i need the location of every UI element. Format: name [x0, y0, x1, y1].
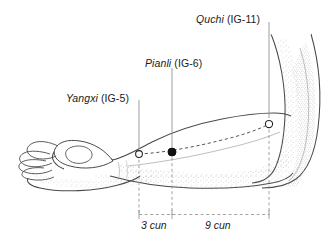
acupoint-label-quchi-code: (IG-11)	[227, 13, 260, 25]
acupoint-label-yangxi: Yangxi (IG-5)	[66, 92, 129, 104]
acupoint-forearm-diagram	[0, 0, 332, 250]
arm-illustration	[19, 30, 330, 200]
acupoint-marker-yangxi[interactable]	[136, 151, 143, 158]
upper-arm	[252, 30, 330, 190]
measurement-label-3-cun: 3 cun	[141, 219, 167, 231]
acupoint-markers	[136, 120, 273, 157]
leader-lines	[139, 22, 269, 149]
acupoint-label-pianli-code: (IG-6)	[174, 57, 202, 69]
hand	[19, 140, 170, 196]
acupoint-label-pianli-name: Pianli	[145, 57, 171, 69]
acupoint-label-yangxi-code: (IG-5)	[101, 92, 129, 104]
acupoint-marker-quchi[interactable]	[265, 120, 272, 127]
acupoint-label-quchi-name: Quchi	[196, 13, 224, 25]
acupoint-label-quchi: Quchi (IG-11)	[196, 13, 260, 25]
acupoint-label-pianli: Pianli (IG-6)	[145, 57, 202, 69]
measurement-label-9-cun: 9 cun	[205, 219, 231, 231]
acupoint-marker-pianli[interactable]	[168, 148, 176, 156]
acupoint-label-yangxi-name: Yangxi	[66, 92, 98, 104]
